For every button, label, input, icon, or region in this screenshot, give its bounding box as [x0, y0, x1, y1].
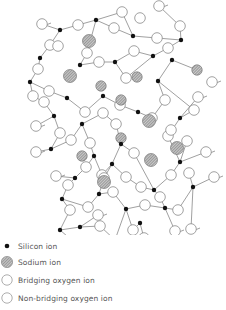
nonbridging-oxygen-ion: [186, 224, 197, 235]
nonbridging-oxygen-ion: [37, 19, 48, 30]
bond-line: [158, 60, 172, 81]
bridging-oxygen-ion: [108, 187, 119, 198]
legend-label: Non-bridging oxygen ion: [18, 294, 113, 303]
bond-line: [115, 209, 126, 235]
bond-line: [60, 227, 80, 230]
glass-network-diagram: [0, 0, 226, 235]
sodium-ion: [64, 70, 77, 83]
bridging-oxygen-ion: [140, 200, 151, 211]
nonbridging-oxygen-ion: [93, 210, 104, 221]
bridging-oxygen-ion: [63, 180, 74, 191]
bridging-oxygen-ion: [184, 168, 195, 179]
bridging-oxygen-ion: [136, 182, 147, 193]
silicon-ion: [38, 56, 42, 60]
bridging-oxygen-ion: [53, 41, 64, 52]
silicon-ion: [156, 79, 160, 83]
bridging-oxygen-ion: [129, 148, 140, 159]
bridging-oxygen-ion: [94, 57, 105, 68]
silicon-ion: [28, 80, 32, 84]
silicon-ion: [178, 116, 182, 120]
bridging-oxygen-ion: [128, 225, 139, 235]
nonbridging-oxygen-ion: [31, 147, 42, 158]
bridging-oxygen-ion: [44, 86, 55, 97]
legend-label: Sodium ion: [18, 258, 61, 267]
bridging-oxygen-ion: [173, 205, 184, 216]
nonbridging-oxygen-ion: [51, 171, 62, 182]
silicon-ion: [113, 60, 117, 64]
bridging-oxygen-ion: [152, 33, 163, 44]
sodium-ion-icon: [0, 255, 14, 269]
silicon-ion: [170, 58, 174, 62]
silicon-ion: [151, 54, 155, 58]
bridging-oxygen-ion: [155, 192, 166, 203]
silicon-ion-icon: [0, 239, 14, 253]
silicon-ion: [97, 192, 101, 196]
bridging-oxygen-ion: [39, 97, 50, 108]
silicon-ion: [131, 34, 135, 38]
nonbridging-oxygen-ion: [193, 92, 204, 103]
silicon-ion: [152, 188, 156, 192]
sodium-ion: [116, 95, 126, 105]
bridging-oxygen-ion: [166, 170, 177, 181]
bridging-oxygen-ion: [98, 108, 109, 119]
nonbridging-oxygen-ion: [154, 1, 165, 12]
sodium-ion: [83, 35, 96, 48]
bridging-oxygen-ion: [135, 13, 146, 24]
silicon-ion: [65, 96, 69, 100]
silicon-ion: [178, 160, 182, 164]
bond-line: [191, 187, 193, 229]
silicon-ion: [136, 110, 140, 114]
bridging-oxygen-ion: [82, 48, 93, 59]
silicon-ion: [52, 114, 56, 118]
legend-item-silicon: Silicon ion: [0, 238, 57, 254]
sodium-ion: [96, 81, 106, 91]
silicon-ion: [78, 63, 82, 67]
legend-item-sodium: Sodium ion: [0, 254, 61, 270]
silicon-ion: [138, 221, 142, 225]
silicon-ion: [110, 162, 114, 166]
bridging-oxygen-ion: [85, 138, 96, 149]
silicon-ion: [73, 176, 77, 180]
silicon-ion: [60, 197, 64, 201]
silicon-ion: [94, 18, 98, 22]
bridging-oxygen-ion: [160, 95, 171, 106]
sodium-ion: [145, 154, 158, 167]
silicon-ion: [92, 154, 96, 158]
bond-lines: [30, 5, 223, 235]
bridging-oxygen-ion: [129, 46, 140, 57]
bridging-oxygen-icon: [0, 273, 14, 287]
nonbridging-oxygen-ion: [207, 77, 218, 88]
bridging-oxygen-ion: [166, 125, 177, 136]
bridging-oxygen-ion: [175, 21, 186, 32]
legend-item-nonbridging-oxygen: Non-bridging oxygen ion: [0, 290, 113, 306]
bond-line: [60, 230, 75, 235]
bridging-oxygen-ion: [111, 119, 122, 130]
bridging-oxygen-ion: [80, 107, 91, 118]
bridging-oxygen-ion: [55, 128, 66, 139]
bridging-oxygen-ion: [117, 7, 128, 18]
silicon-ion: [49, 147, 53, 151]
silicon-ion: [124, 207, 128, 211]
legend-label: Bridging oxygen ion: [18, 276, 95, 285]
bridging-oxygen-ion: [81, 162, 92, 173]
nonbridging-oxygen-ion: [31, 121, 42, 132]
bridging-oxygen-ion: [163, 43, 174, 54]
sodium-ion: [171, 142, 184, 155]
sodium-ion: [98, 176, 111, 189]
bridging-oxygen-ion: [66, 135, 77, 146]
nonbridging-oxygen-ion: [209, 172, 220, 183]
silicon-ion: [163, 206, 167, 210]
silicon-ion: [119, 142, 123, 146]
legend-item-bridging-oxygen: Bridging oxygen ion: [0, 272, 95, 288]
bridging-oxygen-ion: [83, 202, 94, 213]
bridging-oxygen-ion: [121, 172, 132, 183]
nonbridging-oxygen-ion: [201, 147, 212, 158]
bridging-oxygen-ion: [33, 64, 44, 75]
sodium-ion: [77, 151, 87, 161]
sodium-ion: [132, 72, 142, 82]
silicon-ion: [101, 94, 105, 98]
silicon-ion: [179, 38, 183, 42]
legend-label: Silicon ion: [18, 242, 57, 251]
bridging-oxygen-ion: [73, 20, 84, 31]
silicon-ion: [191, 185, 195, 189]
